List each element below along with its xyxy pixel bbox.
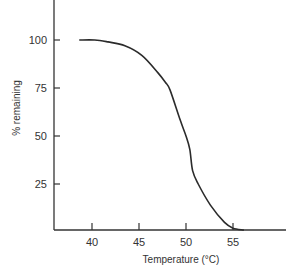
y-tick-label: 100 xyxy=(29,34,47,46)
x-tick-label: 40 xyxy=(86,236,98,248)
x-axis-title: Temperature (°C) xyxy=(143,254,220,265)
y-axis-title: % remaining xyxy=(11,80,22,136)
data-line xyxy=(80,40,244,230)
chart: 255075100 40455055 % remaining Temperatu… xyxy=(0,0,303,270)
x-tick-label: 50 xyxy=(180,236,192,248)
y-tick-label: 25 xyxy=(35,178,47,190)
y-ticks: 255075100 xyxy=(29,34,60,190)
x-tick-label: 55 xyxy=(227,236,239,248)
y-tick-label: 50 xyxy=(35,130,47,142)
y-tick-label: 75 xyxy=(35,82,47,94)
x-ticks: 40455055 xyxy=(86,223,239,248)
x-tick-label: 45 xyxy=(133,236,145,248)
